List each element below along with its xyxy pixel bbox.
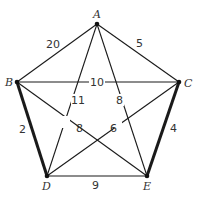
vertex-b [15, 80, 20, 85]
vertex-d [45, 174, 50, 179]
weight-d-e: 9 [92, 179, 99, 192]
vertex-label-a: A [92, 8, 101, 21]
vertex-a [95, 22, 100, 27]
vertex-label-d: D [41, 180, 51, 193]
edge-a-b [17, 24, 97, 82]
vertex-label-c: C [184, 77, 193, 90]
edge-a-c [97, 24, 179, 82]
weight-b-d: 2 [19, 123, 26, 136]
weight-b-e: 8 [76, 122, 83, 135]
vertex-label-e: E [142, 180, 151, 193]
weight-a-c: 5 [136, 37, 143, 50]
weight-a-e: 8 [116, 94, 123, 107]
vertex-e [145, 174, 150, 179]
vertex-c [177, 80, 182, 85]
vertex-label-b: B [4, 76, 13, 89]
weight-a-b: 20 [46, 38, 60, 51]
weight-c-e: 4 [170, 122, 177, 135]
weight-c-d: 6 [110, 122, 117, 135]
weight-b-c: 10 [90, 76, 104, 89]
weighted-graph-diagram: 20 5 10 11 8 8 6 2 4 9 A B C D E [0, 0, 200, 199]
weight-a-d: 11 [71, 94, 85, 107]
